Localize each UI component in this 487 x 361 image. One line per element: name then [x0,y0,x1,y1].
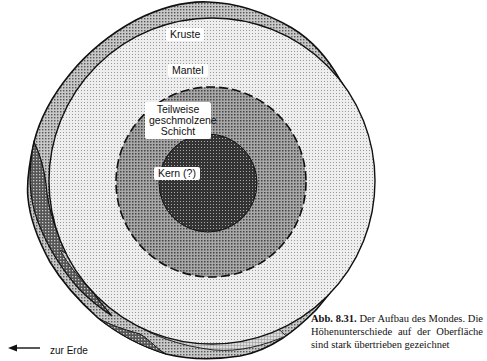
partial-melt-label-line3: Schicht [161,125,195,137]
earth-direction-label: zur Erde [50,345,88,356]
moon-structure-diagram [0,0,487,361]
core-layer [159,134,257,232]
mantle-label: Mantel [168,64,208,77]
left-arrow-icon [8,345,40,352]
caption-number: Abb. 8.31. [311,313,357,324]
core-label: Kern (?) [154,167,200,180]
crust-label: Kruste [166,28,204,41]
partial-melt-label: Teilweise geschmolzene Schicht [145,102,211,139]
figure-caption: Abb. 8.31. Der Aufbau des Mondes. Die Hö… [311,312,483,351]
